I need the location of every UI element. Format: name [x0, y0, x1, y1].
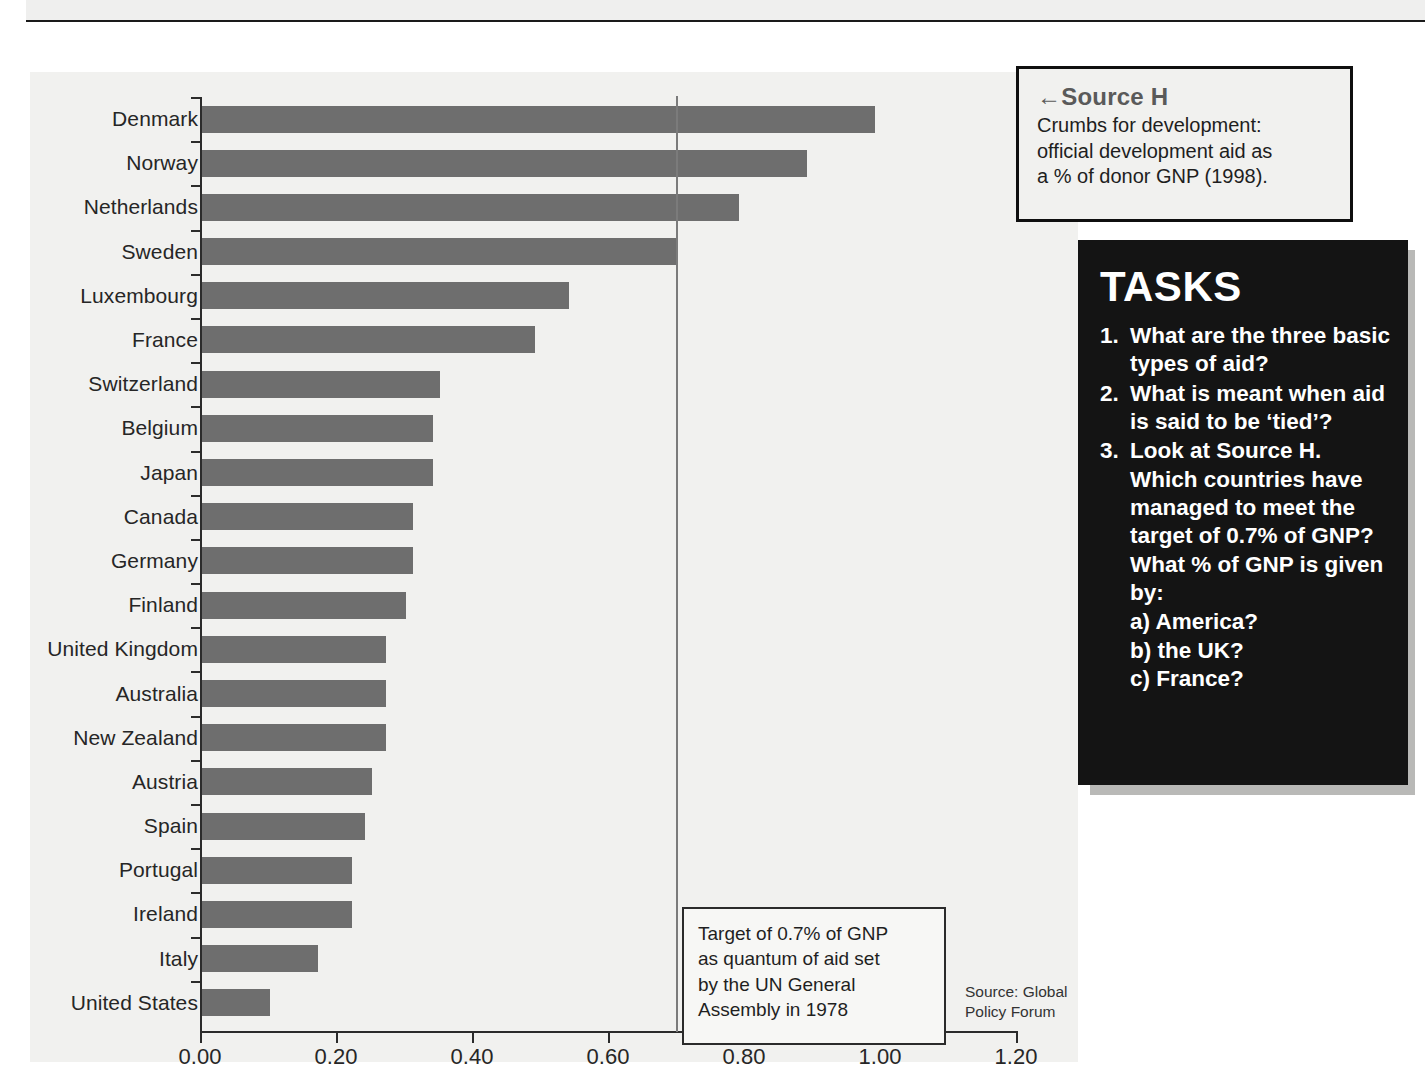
bar-category-label: Germany — [0, 549, 198, 573]
bar-row: Norway — [30, 141, 1078, 185]
bar-category-label: France — [0, 328, 198, 352]
target-callout-line-4: Assembly in 1978 — [698, 997, 930, 1022]
task-number: 1. — [1100, 322, 1130, 350]
bar-category-label: Luxembourg — [0, 284, 198, 308]
bar-category-label: New Zealand — [0, 726, 198, 750]
bar-category-label: Canada — [0, 505, 198, 529]
bar-chart-plot-area: DenmarkNorwayNetherlandsSwedenLuxembourg… — [30, 72, 1078, 1062]
bar-category-label: Switzerland — [0, 372, 198, 396]
bar-row: Germany — [30, 539, 1078, 583]
bar-row: United Kingdom — [30, 627, 1078, 671]
source-h-title: ←Source H — [1037, 83, 1334, 111]
bar — [202, 636, 386, 663]
bar-category-label: Norway — [0, 151, 198, 175]
task-number: 2. — [1100, 380, 1130, 408]
y-axis-tick — [191, 185, 202, 187]
y-axis-tick — [191, 981, 202, 983]
bar-row: Denmark — [30, 97, 1078, 141]
bar-row: Finland — [30, 583, 1078, 627]
bar-category-label: Spain — [0, 814, 198, 838]
bar — [202, 371, 440, 398]
y-axis-tick — [191, 671, 202, 673]
task-text: Look at Source H. Which countries have m… — [1130, 437, 1392, 607]
y-axis-tick — [191, 451, 202, 453]
bar — [202, 326, 535, 353]
bar-category-label: Finland — [0, 593, 198, 617]
y-axis-tick — [191, 848, 202, 850]
target-callout-line-3: by the UN General — [698, 972, 930, 997]
x-axis-tick — [1016, 1031, 1018, 1043]
bar — [202, 282, 569, 309]
y-axis-tick — [191, 804, 202, 806]
y-axis-tick — [191, 892, 202, 894]
bar — [202, 459, 433, 486]
right-page-gutter — [1415, 22, 1425, 1092]
page-top-strip-left-gutter — [0, 0, 26, 22]
source-credit-line-1: Source: Global — [965, 982, 1068, 1002]
bar-category-label: Austria — [0, 770, 198, 794]
task-number: 3. — [1100, 437, 1130, 465]
y-axis-tick — [191, 937, 202, 939]
tasks-sublist: a) America?b) the UK?c) France? — [1130, 608, 1392, 693]
y-axis-tick — [191, 141, 202, 143]
y-axis-tick — [191, 406, 202, 408]
page-top-strip — [0, 0, 1425, 22]
source-h-title-text: Source H — [1061, 83, 1168, 110]
bar — [202, 989, 270, 1016]
bar-category-label: Netherlands — [0, 195, 198, 219]
bar — [202, 503, 413, 530]
source-credit-line-2: Policy Forum — [965, 1002, 1068, 1022]
bar — [202, 547, 413, 574]
bar-category-label: United Kingdom — [0, 637, 198, 661]
task-subitem: a) America? — [1130, 608, 1392, 636]
x-axis-tick — [608, 1031, 610, 1043]
target-callout-line-2: as quantum of aid set — [698, 946, 930, 971]
bar-row: Portugal — [30, 848, 1078, 892]
bar — [202, 724, 386, 751]
bar — [202, 813, 365, 840]
task-item: 1.What are the three basic types of aid? — [1100, 322, 1392, 379]
bar-row: Spain — [30, 804, 1078, 848]
bar — [202, 768, 372, 795]
bar — [202, 945, 318, 972]
target-reference-line — [676, 96, 678, 1032]
target-callout-line-1: Target of 0.7% of GNP — [698, 921, 930, 946]
bar-row: Luxembourg — [30, 274, 1078, 318]
bar-row: Netherlands — [30, 185, 1078, 229]
task-subitem: b) the UK? — [1130, 637, 1392, 665]
bar-category-label: Australia — [0, 682, 198, 706]
y-axis-tick — [191, 97, 202, 99]
task-text: What is meant when aid is said to be ‘ti… — [1130, 380, 1392, 437]
x-axis-tick — [336, 1031, 338, 1043]
bar-category-label: Japan — [0, 461, 198, 485]
bar-row: Australia — [30, 671, 1078, 715]
bar-category-label: Italy — [0, 947, 198, 971]
bar-category-label: United States — [0, 991, 198, 1015]
target-callout-box: Target of 0.7% of GNP as quantum of aid … — [682, 907, 946, 1045]
bar — [202, 901, 352, 928]
source-h-body-line-2: official development aid as — [1037, 139, 1334, 165]
tasks-list: 1.What are the three basic types of aid?… — [1100, 322, 1392, 607]
y-axis-tick — [191, 716, 202, 718]
source-h-box: ←Source H Crumbs for development: offici… — [1016, 66, 1353, 222]
bar — [202, 857, 352, 884]
y-axis-tick — [191, 539, 202, 541]
tasks-box: TASKS 1.What are the three basic types o… — [1078, 240, 1408, 785]
chart-panel: DenmarkNorwayNetherlandsSwedenLuxembourg… — [30, 72, 1078, 1062]
source-h-body: Crumbs for development: official develop… — [1037, 113, 1334, 190]
bar-category-label: Belgium — [0, 416, 198, 440]
bar — [202, 415, 433, 442]
bar — [202, 194, 739, 221]
bottom-page-gutter — [0, 1066, 1425, 1092]
bar-category-label: Denmark — [0, 107, 198, 131]
bar-row: Switzerland — [30, 362, 1078, 406]
bar — [202, 592, 406, 619]
bar-row: France — [30, 318, 1078, 362]
bar-row: Belgium — [30, 406, 1078, 450]
task-text: What are the three basic types of aid? — [1130, 322, 1392, 379]
y-axis-tick — [191, 318, 202, 320]
bar-row: Canada — [30, 495, 1078, 539]
bar — [202, 680, 386, 707]
y-axis-tick — [191, 627, 202, 629]
y-axis-tick — [191, 583, 202, 585]
